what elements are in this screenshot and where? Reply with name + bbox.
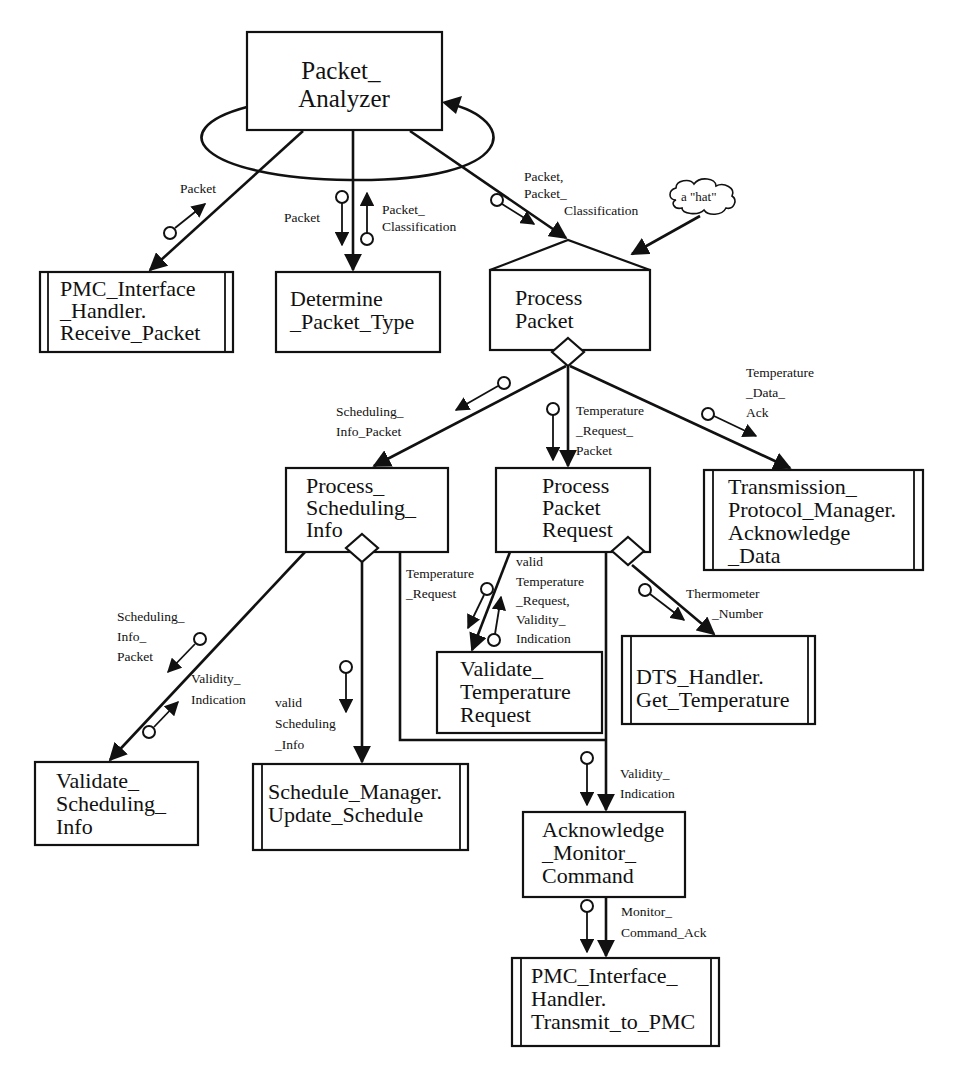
module-process-packet[interactable]: Process Packet [490, 240, 650, 350]
couple-label-scheduling-info-packet-2: Scheduling_ Info_ Packet [117, 609, 188, 664]
hat-annotation-cloud: a "hat" [670, 179, 735, 214]
couple-label-packet-and-classification: Packet, Packet_ Classification [524, 169, 638, 218]
module-determine-packet-type[interactable]: Determine _Packet_Type [276, 272, 440, 352]
couple-monitor-command-ack [581, 900, 593, 952]
call-receive-packet [150, 131, 303, 270]
couple-label-packet-determine: Packet [284, 210, 320, 225]
module-update-schedule[interactable]: Schedule_Manager. Update_Schedule [253, 764, 468, 850]
module-get-temperature[interactable]: DTS_Handler. Get_Temperature [622, 636, 815, 724]
module-acknowledge-monitor-command[interactable]: Acknowledge _Monitor_ Command [523, 812, 685, 897]
couple-scheduling-info-packet-2 [168, 633, 206, 672]
svg-text:DTS_Handler. Get_Tempera: DTS_Handler. Get_Temperature [636, 664, 790, 712]
structure-chart: Packet Packet Packet_ Classification Pac… [0, 0, 958, 1067]
module-receive-packet[interactable]: PMC_Interface _Handler. Receive_Packet [40, 272, 233, 352]
hat-pointer [632, 216, 700, 254]
couple-validity-indication-2 [581, 752, 593, 805]
module-packet-analyzer[interactable]: Packet_ Analyzer [247, 32, 442, 130]
couple-label-scheduling-info-packet: Scheduling_ Info_Packet [336, 404, 407, 439]
couple-packet-receive [164, 204, 205, 239]
couple-label-temperature-request-packet: Temperature _Request_ Packet [575, 403, 647, 458]
couple-scheduling-info-packet [456, 377, 510, 410]
couple-temperature-request-packet [547, 403, 559, 460]
couple-label-valid-scheduling-info: valid Scheduling _Info [274, 695, 339, 752]
hat-label: a "hat" [681, 189, 717, 204]
svg-text:Process Packet Req: Process Packet Request [542, 473, 615, 542]
module-validate-temperature-request[interactable]: Validate_ Temperature Request [437, 652, 602, 733]
module-transmit-to-pmc[interactable]: PMC_Interface_ Handler. Transmit_to_PMC [512, 958, 719, 1046]
couple-label-valid-temperature-request: valid Temperature _Request, Validity_ In… [515, 554, 587, 646]
couple-label-validity-indication-2: Validity_ Indication [620, 766, 675, 801]
couple-label-thermometer-number: Thermometer _Number [686, 586, 763, 621]
svg-text:Schedule_Manager. Update: Schedule_Manager. Update_Schedule [268, 779, 448, 827]
svg-text:Packet_ Analyzer: Packet_ Analyzer [298, 57, 390, 112]
couple-label-packet-receive: Packet [180, 181, 216, 196]
couple-valid-scheduling-info [340, 661, 352, 712]
couple-label-monitor-command-ack: Monitor_ Command_Ack [621, 904, 707, 940]
couple-label-temperature-data-ack: Temperature _Data_ Ack [745, 365, 817, 420]
couple-label-validity-indication-1: Validity_ Indication [191, 671, 246, 707]
couple-label-temperature-request: Temperature _Request [405, 566, 477, 601]
couple-packet-determine [336, 191, 348, 245]
couple-label-packet-classification: Packet_ Classification [382, 202, 456, 234]
module-validate-scheduling-info[interactable]: Validate_ Scheduling_ Info [35, 762, 198, 845]
couple-packet-classification [361, 193, 373, 245]
module-acknowledge-data[interactable]: Transmission_ Protocol_Manager. Acknowle… [704, 470, 923, 570]
